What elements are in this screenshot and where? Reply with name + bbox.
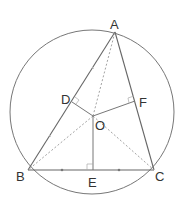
label-a: A <box>110 17 119 32</box>
geometry-diagram: A B C D E F O <box>0 0 188 213</box>
tick-be <box>61 169 64 172</box>
perp-of <box>93 101 135 116</box>
circumcircle <box>10 30 174 194</box>
dashed-oa <box>93 32 115 116</box>
side-ab <box>28 32 115 170</box>
label-e: E <box>88 175 97 190</box>
label-d: D <box>61 92 70 107</box>
right-angle-d <box>75 97 79 104</box>
label-o: O <box>95 118 105 133</box>
label-c: C <box>155 169 164 184</box>
label-b: B <box>16 169 25 184</box>
label-f: F <box>139 95 147 110</box>
tick-ec <box>118 169 121 172</box>
dashed-ob <box>28 116 93 170</box>
right-angle-e <box>87 164 93 170</box>
perp-od <box>72 102 93 116</box>
